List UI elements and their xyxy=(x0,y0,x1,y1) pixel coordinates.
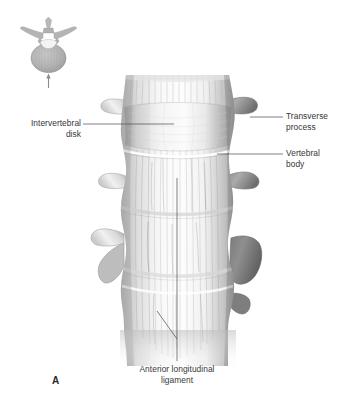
figure-letter: A xyxy=(52,375,59,386)
anatomical-figure: Intervertebral disk Transverse process V… xyxy=(0,0,355,409)
transverse-process-left-middle xyxy=(99,173,129,188)
spine-illustration xyxy=(0,0,355,409)
label-vertebral-body: Vertebral body xyxy=(286,148,352,169)
label-intervertebral-disk: Intervertebral disk xyxy=(6,118,81,139)
transverse-process-left-lowest xyxy=(98,243,124,283)
lumbar-spine-column xyxy=(91,70,262,370)
label-transverse-process: Transverse process xyxy=(286,111,352,132)
vertebral-column-body xyxy=(112,70,240,370)
label-anterior-longitudinal-ligament: Anterior longitudinal ligament xyxy=(104,364,250,385)
transverse-process-right-middle xyxy=(229,172,259,189)
transverse-process-left-lower xyxy=(91,229,124,246)
transverse-process-right-lower xyxy=(230,236,262,284)
orientation-inset-graphic xyxy=(20,17,76,88)
